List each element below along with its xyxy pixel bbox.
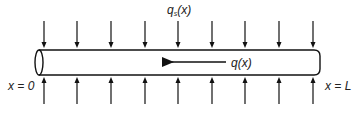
surface-load-main: q: [167, 3, 174, 17]
internal-flow-label: q(x): [231, 57, 252, 69]
tube-right-end-cap: [314, 50, 320, 75]
left-end-label: x = 0: [8, 80, 34, 92]
right-end-label: x = L: [325, 80, 351, 92]
cylinder-diagram: [0, 0, 361, 119]
tube-left-end-ellipse: [35, 50, 43, 75]
surface-load-label: qs(x): [167, 4, 191, 17]
surface-load-arrows-bottom: [44, 80, 313, 104]
surface-load-arrows-top: [44, 21, 313, 45]
surface-load-arg: (x): [177, 3, 191, 17]
